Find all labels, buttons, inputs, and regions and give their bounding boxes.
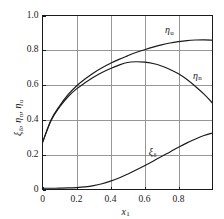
curve-ηn <box>43 62 213 143</box>
x-tick-label: 0 <box>28 195 58 205</box>
x-axis-title: x1 <box>122 207 130 219</box>
y-tick-label: 0.4 <box>27 115 39 125</box>
y-tick-label: 0.6 <box>27 80 39 90</box>
data-curves <box>43 40 213 188</box>
x-tick-label: 0.6 <box>130 195 160 205</box>
curve-label-eta-n: ηn <box>193 71 202 83</box>
curve-label-eta-u: ηu <box>165 25 174 37</box>
horizontal-gridlines <box>43 51 213 156</box>
gridlines <box>43 16 213 190</box>
axis-tick-marks <box>43 17 180 191</box>
y-tick-label: 0.8 <box>27 45 39 55</box>
x-tick-label: 0.2 <box>62 195 92 205</box>
vertical-gridlines <box>78 16 180 190</box>
plot-frame <box>43 16 213 190</box>
x-tick-label: 0.8 <box>164 195 194 205</box>
y-tick-label: 0 <box>34 185 39 195</box>
y-axis-title: ξδ, ηn, ηu <box>13 99 25 135</box>
curve-ξδ <box>43 133 213 188</box>
curve-ηu <box>43 40 213 143</box>
x-tick-label: 0.4 <box>96 195 126 205</box>
curve-label-xi-delta: ξδ <box>149 147 157 159</box>
y-tick-label: 1.0 <box>27 11 39 21</box>
y-tick-label: 0.2 <box>27 150 39 160</box>
chart-figure: 00.20.40.60.81.0 00.20.40.60.8 ηuηnξδ ξδ… <box>0 0 224 218</box>
